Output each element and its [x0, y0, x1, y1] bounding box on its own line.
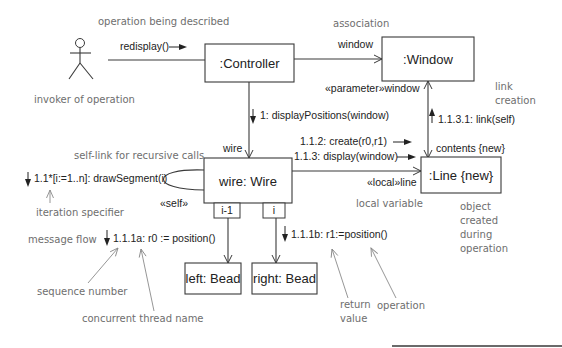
arrow-up-icon — [429, 108, 435, 123]
annotation-object-4: operation — [460, 243, 508, 254]
message-position-b: 1.1.1b: r1:=position() — [291, 228, 388, 240]
annotation-link-1: link — [495, 81, 513, 92]
annotation-local-variable: local variable — [356, 198, 423, 209]
actor-label: invoker of operation — [34, 94, 135, 105]
role-self: «self» — [160, 197, 188, 209]
annotation-sequence-number: sequence number — [37, 286, 128, 297]
line-label: :Line {new} — [429, 168, 494, 183]
annotation-concurrent-thread: concurrent thread name — [82, 313, 204, 324]
left-bead-label: left: Bead — [186, 271, 241, 286]
collaboration-diagram: invoker of operation operation being des… — [0, 0, 562, 348]
annotation-operation-described: operation being described — [98, 16, 229, 27]
role-local-line: «local»line — [367, 176, 417, 188]
right-bead-label: right: Bead — [253, 271, 316, 286]
message-position-a: 1.1.1a: r0 := position() — [113, 232, 215, 244]
message-redisplay: redisplay() — [120, 40, 169, 52]
message-create: 1.1.2: create(r0,r1) — [300, 135, 387, 147]
annotation-association: association — [333, 18, 389, 29]
arrow-down-icon — [282, 226, 288, 242]
qualifier-left-label: i-1 — [221, 204, 233, 216]
window-label: :Window — [403, 52, 453, 67]
role-contents-new: contents {new} — [436, 142, 505, 154]
role-parameter-window: «parameter»window — [325, 82, 420, 94]
annotation-return-2: value — [340, 313, 367, 324]
annotation-self-link: self-link for recursive calls — [74, 150, 204, 161]
qualifier-right-label: i — [273, 204, 275, 216]
arrow-down-icon — [250, 109, 256, 124]
arrow-right-icon — [393, 139, 412, 145]
message-draw-segment: 1.1*[i:=1..n]: drawSegment(i) — [34, 172, 167, 184]
role-wire: wire — [222, 142, 242, 154]
annotation-operation: operation — [377, 300, 425, 311]
annotation-iteration-specifier: iteration specifier — [36, 207, 125, 218]
annotation-link-2: creation — [495, 95, 536, 106]
stick-figure-icon — [69, 39, 93, 80]
message-display-positions: 1: displayPositions(window) — [260, 109, 389, 121]
self-link — [164, 170, 205, 190]
controller-label: :Controller — [220, 56, 281, 71]
message-link-self: 1.1.3.1: link(self) — [438, 113, 515, 125]
annotation-message-flow: message flow — [28, 234, 97, 245]
role-window: window — [337, 38, 373, 50]
arrow-down-icon — [25, 172, 31, 187]
wire-label: wire: Wire — [218, 174, 277, 189]
message-display: 1.1.3: display(window) — [294, 150, 398, 162]
annotation-object-3: during — [460, 229, 492, 240]
annotation-return-1: return — [340, 299, 371, 310]
arrow-right-icon — [169, 44, 187, 50]
arrow-down-icon — [104, 230, 110, 246]
annotation-object-1: object — [460, 201, 491, 212]
arrow-right-icon — [397, 154, 416, 160]
annotation-object-2: created — [460, 215, 498, 226]
